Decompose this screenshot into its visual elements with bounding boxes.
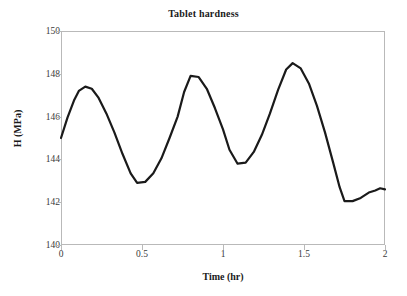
x-tick-label: 0	[41, 249, 81, 259]
y-tick-label: 144	[20, 154, 60, 164]
y-tick-mark	[56, 31, 61, 32]
y-tick-mark	[56, 159, 61, 160]
y-tick-label: 142	[20, 197, 60, 207]
plot-svg	[61, 31, 385, 245]
x-tick-mark	[304, 245, 305, 250]
y-tick-label: 150	[20, 26, 60, 36]
y-axis-title: H (MPa)	[12, 69, 23, 189]
y-tick-mark	[56, 117, 61, 118]
y-tick-mark	[56, 74, 61, 75]
y-tick-mark	[56, 202, 61, 203]
x-tick-label: 0.5	[122, 249, 162, 259]
x-axis-title: Time (hr)	[61, 271, 385, 282]
chart-title: Tablet hardness	[0, 8, 407, 19]
x-tick-mark	[61, 245, 62, 250]
data-series-line	[61, 63, 385, 201]
x-tick-label: 1	[203, 249, 243, 259]
x-tick-mark	[223, 245, 224, 250]
y-tick-label: 148	[20, 69, 60, 79]
x-tick-mark	[142, 245, 143, 250]
x-tick-mark	[385, 245, 386, 250]
y-tick-label: 146	[20, 112, 60, 122]
chart-figure: Tablet hardness 140142144146148150 00.51…	[0, 0, 407, 296]
x-tick-label: 2	[365, 249, 405, 259]
x-tick-label: 1.5	[284, 249, 324, 259]
